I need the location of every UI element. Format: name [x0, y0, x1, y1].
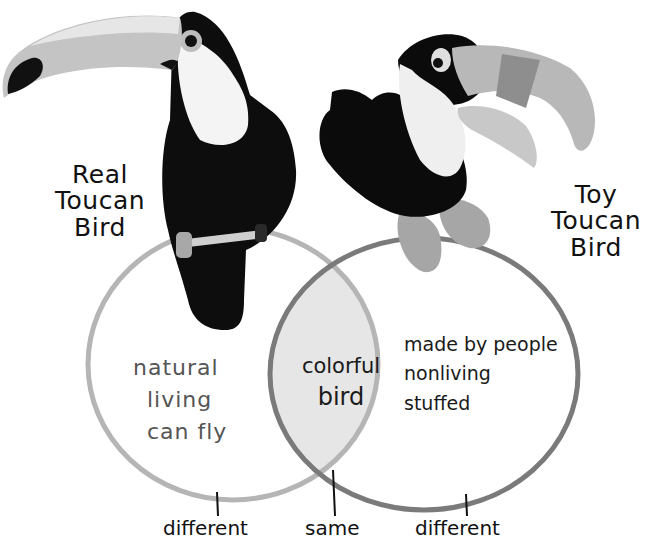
same-tick [333, 470, 335, 516]
toy-title-line-2: Toucan [548, 208, 644, 234]
venn-diagram-canvas [0, 0, 648, 556]
real-toucan-photo [3, 12, 296, 330]
trait-made-by-people: made by people [404, 330, 558, 359]
real-title-line-2: Toucan [55, 188, 145, 214]
real-title-line-1: Real [55, 162, 145, 188]
toy-title-line-3: Bird [548, 235, 644, 261]
right-different-label: different [415, 518, 500, 539]
trait-can-fly: can fly [133, 416, 227, 448]
toy-toucan-title: Toy Toucan Bird [548, 182, 644, 261]
toy-toucan-traits: made by people nonliving stuffed [404, 330, 558, 418]
trait-nonliving: nonliving [404, 359, 558, 388]
shared-traits: colorful bird [286, 352, 396, 415]
toy-title-line-1: Toy [548, 182, 644, 208]
trait-natural: natural [133, 352, 227, 384]
trait-bird: bird [286, 381, 396, 415]
trait-stuffed: stuffed [404, 389, 558, 418]
left-different-tick [217, 492, 218, 516]
same-label: same [305, 518, 359, 539]
trait-colorful: colorful [286, 352, 396, 381]
right-different-tick [466, 494, 467, 516]
left-different-label: different [163, 518, 248, 539]
real-toucan-title: Real Toucan Bird [55, 162, 145, 241]
real-title-line-3: Bird [55, 215, 145, 241]
trait-living: living [133, 384, 227, 416]
real-toucan-traits: natural living can fly [133, 352, 227, 448]
